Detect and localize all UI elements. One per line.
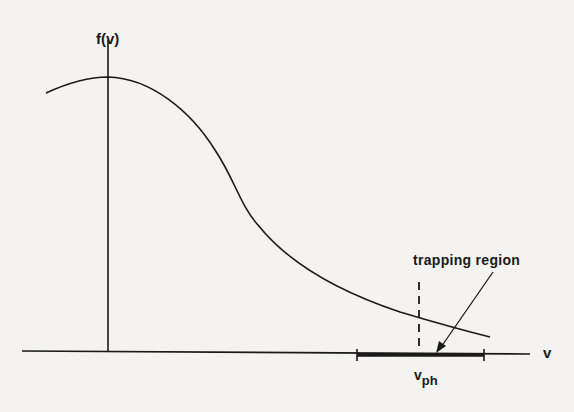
y-axis-label: f(v) [96,30,119,47]
figure: f(v) v trapping region vph [0,0,574,412]
annotation-arrow [439,272,493,350]
vph-main: v [414,367,422,383]
plot-canvas [0,0,574,412]
trapping-region-label: trapping region [413,252,520,268]
vph-subscript: ph [422,373,438,388]
x-axis-label: v [543,344,551,361]
vph-label: vph [414,367,438,388]
distribution-curve [46,77,490,337]
